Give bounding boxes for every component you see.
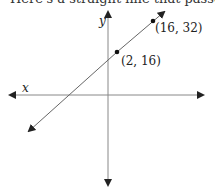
point-label-16-32: (16, 32) bbox=[155, 22, 203, 34]
y-axis-label: y bbox=[99, 15, 106, 27]
point-2-16 bbox=[115, 50, 120, 55]
x-axis-label: x bbox=[22, 82, 29, 94]
graph-line bbox=[29, 12, 164, 131]
point-label-2-16: (2, 16) bbox=[121, 55, 161, 67]
